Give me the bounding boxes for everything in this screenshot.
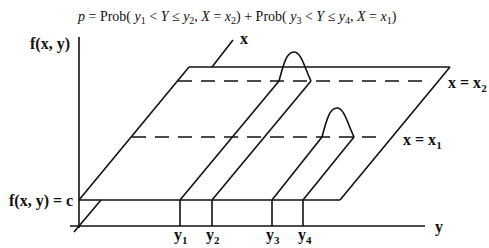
tick-label-y3: y3 [266,226,280,246]
density-bump-x1 [322,108,354,137]
tick-label-y4: y4 [298,226,312,246]
strip-y2 [212,81,311,200]
strip-y4 [303,137,354,200]
y-axis-label: y [435,218,443,236]
x-axis-label: x [240,30,248,47]
dashed-lines [132,81,425,137]
formula: p = Prob( y1 < Y ≤ y2, X = x2) + Prob( y… [77,9,397,26]
strip-y1 [180,81,279,200]
plane-left-edge [79,67,189,200]
f-axis-label: f(x, y) [30,35,70,53]
tick-label-y1: y1 [174,226,188,246]
tick-label-y2: y2 [206,226,220,246]
plane-label: f(x, y) = c [9,192,73,210]
joint-density-diagram: p = Prob( y1 < Y ≤ y2, X = x2) + Prob( y… [0,0,489,248]
strip-y3 [272,137,322,200]
diagram-lines [70,37,450,232]
x-axis-lower [74,200,101,232]
x-axis-upper [212,40,233,67]
label-x-equals-x1: x = x1 [403,131,442,151]
diagram-svg: p = Prob( y1 < Y ≤ y2, X = x2) + Prob( y… [0,0,489,248]
label-x-equals-x2: x = x2 [448,74,487,94]
